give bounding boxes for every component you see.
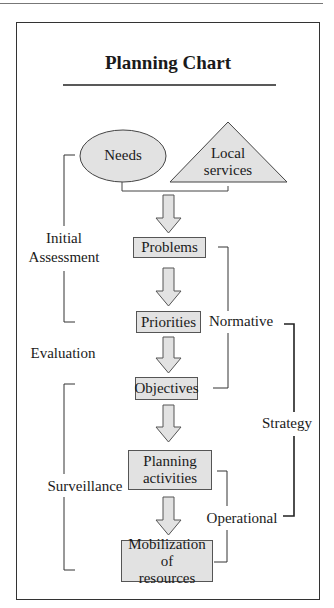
- normative-bracket-top: [218, 247, 228, 311]
- step-objectives: Objectives: [135, 377, 198, 400]
- initial-assessment-line1: Initial: [24, 229, 104, 248]
- strategy-bracket-bottom: [283, 436, 294, 516]
- step-priorities: Priorities: [136, 311, 201, 333]
- step-problems: Problems: [133, 237, 206, 258]
- brackets: [64, 155, 228, 570]
- normative-bracket-bottom: [213, 333, 228, 388]
- arrow-1: [156, 195, 181, 233]
- normative-label: Normative: [209, 312, 273, 330]
- surveillance-label: Surveillance: [47, 477, 123, 495]
- local-services-line1: Local: [190, 145, 266, 162]
- strategy-bracket-top: [284, 324, 294, 412]
- arrow-4: [156, 405, 181, 442]
- operational-bracket-top: [217, 471, 227, 506]
- diagram-graphics: [0, 0, 334, 608]
- initial-assessment-line2: Assessment: [24, 248, 104, 267]
- step-mobilization-of-resources: Mobilization of resources: [121, 540, 213, 582]
- inputs-connector: [122, 182, 228, 191]
- mobilization-line1: Mobilization of: [122, 536, 212, 570]
- step-planning-activities: Planning activities: [128, 450, 212, 490]
- evaluation-label: Evaluation: [29, 344, 97, 362]
- arrow-2: [156, 268, 181, 306]
- local-services-label: Local services: [190, 145, 266, 179]
- mobilization-line2: resources: [139, 570, 196, 587]
- initial-assessment-label: Initial Assessment: [24, 229, 104, 267]
- arrow-5: [156, 497, 181, 535]
- strategy-label: Strategy: [261, 414, 313, 432]
- surveillance-bracket-bottom: [64, 497, 75, 570]
- needs-label: Needs: [80, 147, 166, 164]
- planning-activities-line2: activities: [143, 470, 197, 487]
- planning-activities-line1: Planning: [143, 453, 196, 470]
- surveillance-bracket-top: [64, 384, 75, 474]
- operational-label: Operational: [206, 509, 278, 527]
- operational-bracket-bottom: [214, 530, 227, 562]
- local-services-line2: services: [190, 162, 266, 179]
- initial-assessment-bracket-bottom: [64, 271, 75, 322]
- initial-assessment-bracket-top: [64, 155, 75, 226]
- arrow-3: [156, 337, 181, 373]
